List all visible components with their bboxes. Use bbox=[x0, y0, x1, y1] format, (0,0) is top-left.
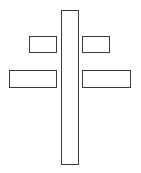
lower-left-arm-rect bbox=[9, 70, 57, 88]
upper-right-arm-rect bbox=[82, 36, 110, 53]
vertical-stem-rect bbox=[61, 10, 79, 165]
lower-right-arm-rect bbox=[82, 70, 131, 88]
upper-left-arm-rect bbox=[29, 36, 57, 53]
